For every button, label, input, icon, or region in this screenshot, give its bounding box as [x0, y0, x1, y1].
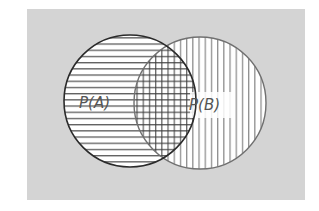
venn-diagram: P(A) P(B)	[0, 0, 319, 211]
set-b-label: P(B)	[189, 96, 220, 114]
set-a-label: P(A)	[79, 94, 110, 112]
